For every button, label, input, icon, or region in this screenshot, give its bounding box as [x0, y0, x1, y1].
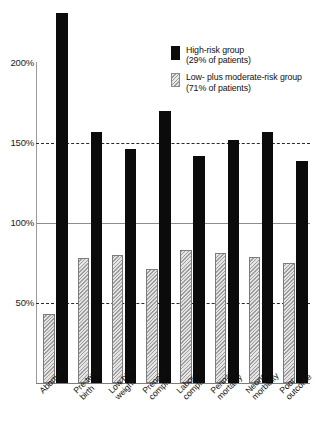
bar-high-risk-3	[159, 111, 171, 383]
bar-low-moderate-risk-1	[78, 258, 90, 383]
bar-high-risk-1	[91, 132, 103, 383]
bar-low-moderate-risk-5	[215, 253, 227, 383]
bar-low-moderate-risk-3	[146, 269, 158, 383]
bar-high-risk-5	[228, 140, 240, 383]
bar-low-moderate-risk-6	[249, 257, 261, 383]
legend-entry-high-risk: High-risk group (29% of patients)	[171, 45, 316, 65]
chart-legend: High-risk group (29% of patients) Low- p…	[171, 45, 316, 100]
legend-label-low-moderate-risk-line2: (71% of patients)	[186, 83, 302, 93]
x-axis-category-labels: AbortionPre-term birthLow birth weightPr…	[0, 383, 318, 439]
bar-high-risk-4	[193, 156, 205, 383]
bar-low-moderate-risk-4	[180, 250, 192, 383]
legend-swatch-high-risk-icon	[171, 46, 180, 60]
bar-low-moderate-risk-7	[283, 263, 295, 383]
legend-label-low-moderate-risk: Low- plus moderate-risk group (71% of pa…	[186, 72, 302, 92]
legend-label-low-moderate-risk-line1: Low- plus moderate-risk group	[186, 72, 302, 82]
bar-high-risk-7	[296, 161, 308, 383]
legend-label-high-risk: High-risk group (29% of patients)	[186, 45, 251, 65]
risk-outcome-bar-chart: 50%100%150%200% AbortionPre-term birthLo…	[0, 0, 318, 439]
legend-label-high-risk-line1: High-risk group	[186, 45, 251, 55]
bar-high-risk-0	[56, 13, 68, 383]
legend-swatch-low-moderate-risk-icon	[171, 73, 180, 87]
bar-low-moderate-risk-2	[112, 255, 124, 383]
legend-entry-low-moderate-risk: Low- plus moderate-risk group (71% of pa…	[171, 72, 316, 92]
bar-high-risk-2	[125, 149, 137, 383]
bar-high-risk-6	[262, 132, 274, 383]
legend-label-high-risk-line2: (29% of patients)	[186, 55, 251, 65]
